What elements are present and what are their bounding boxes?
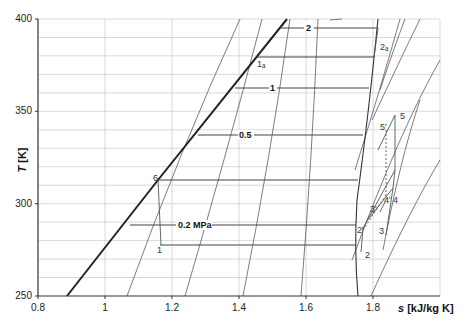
point-3: 3 xyxy=(379,226,384,236)
point-4: 4 xyxy=(393,195,398,205)
isobar-label-2: 2 xyxy=(306,23,311,33)
isobar-label-0.5: 0.5 xyxy=(239,130,252,140)
grid xyxy=(38,19,440,296)
x-tick-1.4: 1.4 xyxy=(232,302,246,313)
cycle-lines xyxy=(158,28,395,252)
point-1a: 1ₐ xyxy=(257,59,266,69)
cycle-dashed xyxy=(363,130,386,230)
point-5: 5 xyxy=(400,111,405,121)
x-tick-1.6: 1.6 xyxy=(299,302,313,313)
point-1: 1 xyxy=(157,245,162,255)
axis-ticks xyxy=(35,19,373,299)
x-tick-1.8: 1.8 xyxy=(366,302,380,313)
point-6: 6 xyxy=(153,173,158,183)
isobar-label-0.2: 0.2 MPa xyxy=(178,220,213,230)
saturated-liquid-line xyxy=(67,19,287,296)
y-axis-label: T [K] xyxy=(16,147,28,172)
y-tick-350: 350 xyxy=(15,105,32,116)
x-tick-0.8: 0.8 xyxy=(31,302,45,313)
x-axis-label: s [kJ/kg K] xyxy=(398,302,454,314)
x-tick-1: 1 xyxy=(102,302,108,313)
point-4-prime: 4' xyxy=(384,195,391,205)
point-5-prime: 5' xyxy=(380,122,387,132)
isobar-label-1: 1 xyxy=(270,83,275,93)
point-2-prime: 2' xyxy=(357,225,364,235)
x-tick-1.2: 1.2 xyxy=(165,302,179,313)
isochores xyxy=(127,19,440,296)
point-3-prime: 3' xyxy=(370,204,377,214)
point-2: 2 xyxy=(365,250,370,260)
ts-diagram: 400 350 300 250 0.8 1 1.2 1.4 1.6 1.8 s … xyxy=(0,0,465,327)
y-tick-250: 250 xyxy=(15,290,32,301)
point-2a: 2ₐ xyxy=(380,42,389,52)
y-tick-300: 300 xyxy=(15,198,32,209)
y-tick-400: 400 xyxy=(15,13,32,24)
